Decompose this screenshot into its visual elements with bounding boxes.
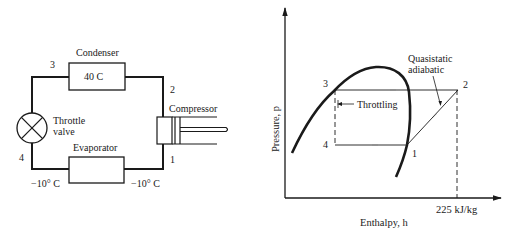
x-axis-label: Enthalpy, h	[360, 217, 408, 228]
state-point-4-label: 4	[19, 152, 24, 163]
chart-point-3-label: 3	[323, 78, 328, 89]
compressor-icon	[157, 117, 228, 144]
x-tick-label-225: 225 kJ/kg	[436, 204, 478, 215]
quasistatic-pointer	[433, 76, 440, 103]
quasistatic-pointer-head	[439, 101, 443, 106]
y-axis-label: Pressure, p	[270, 106, 281, 152]
compressor-label: Compressor	[169, 103, 218, 114]
cycle-schematic	[17, 63, 228, 183]
evaporator-box	[69, 157, 124, 183]
evaporator-label: Evaporator	[73, 142, 118, 153]
state-point-3-label: 3	[50, 59, 55, 70]
chart-point-4-label: 4	[323, 139, 328, 150]
state-point-2-label: 2	[170, 84, 175, 95]
chart-point-1-label: 1	[412, 148, 417, 159]
condenser-temperature: 40 C	[84, 71, 104, 82]
line-1-to-2	[407, 90, 458, 145]
throttle-valve-icon	[17, 113, 47, 143]
evaporator-outlet-temperature: −10° C	[131, 178, 160, 189]
throttling-annotation: Throttling	[357, 99, 398, 110]
throttle-valve-label-line2: valve	[53, 126, 75, 137]
state-point-1-label: 1	[170, 154, 175, 165]
chart-point-2-label: 2	[463, 79, 468, 90]
saturation-dome-curve	[292, 67, 410, 177]
refrigeration-cycle-figure: Condenser 40 C Evaporator Throttle valve…	[0, 0, 516, 237]
evaporator-inlet-temperature: −10° C	[31, 178, 60, 189]
quasistatic-annotation-line1: Quasistatic	[408, 53, 453, 64]
quasistatic-annotation-line2: adiabatic	[408, 64, 445, 75]
throttle-valve-label-line1: Throttle	[53, 115, 86, 126]
condenser-label: Condenser	[76, 47, 119, 58]
